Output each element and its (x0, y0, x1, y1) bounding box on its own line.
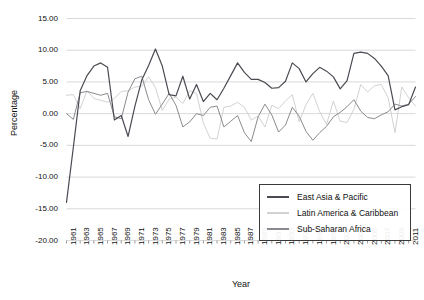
legend-swatch-sub-saharan-africa (267, 228, 289, 230)
x-tick-label: 1971 (138, 227, 146, 245)
line-chart: 15.0010.005.000.00-5.00-10.00-15.00-20.0… (0, 0, 424, 300)
legend-item[interactable]: Sub-Saharan Africa (260, 221, 410, 237)
x-axis-tick-labels: 1961196319651967196919711973197519771979… (0, 0, 424, 300)
x-tick-label: 1985 (234, 227, 242, 245)
x-tick-label: 1969 (124, 227, 132, 245)
x-tick-label: 1963 (83, 227, 91, 245)
x-tick-label: 1979 (193, 227, 201, 245)
legend-swatch-latin-america-caribbean (267, 212, 289, 214)
legend-item[interactable]: Latin America & Caribbean (260, 205, 410, 221)
x-tick-label: 1981 (206, 227, 214, 245)
legend-swatch-east-asia-pacific (267, 196, 289, 198)
legend-label-east-asia-pacific: East Asia & Pacific (297, 192, 368, 202)
x-tick-label: 1961 (70, 227, 78, 245)
x-tick-label: 1965 (97, 227, 105, 245)
legend-item[interactable]: East Asia & Pacific (260, 189, 410, 205)
legend-label-sub-saharan-africa: Sub-Saharan Africa (297, 224, 371, 234)
x-tick-label: 1975 (165, 227, 173, 245)
y-axis-title: Percentage (9, 63, 19, 163)
legend-label-latin-america-caribbean: Latin America & Caribbean (297, 208, 398, 218)
x-tick-label: 1973 (152, 227, 160, 245)
x-tick-label: 2011 (412, 227, 420, 244)
x-axis-title: Year (66, 279, 416, 289)
x-tick-label: 1977 (179, 227, 187, 245)
x-tick-label: 1983 (220, 227, 228, 245)
x-tick-label: 1987 (247, 227, 255, 245)
legend: East Asia & Pacific Latin America & Cari… (259, 184, 411, 241)
x-tick-label: 1967 (111, 227, 119, 245)
